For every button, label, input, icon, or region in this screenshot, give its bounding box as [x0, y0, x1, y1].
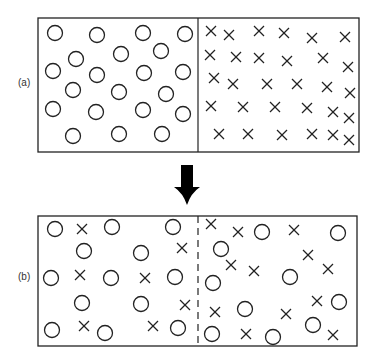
circle-particle-icon — [98, 326, 113, 341]
circle-particle-icon — [137, 66, 152, 81]
circle-particle-icon — [176, 107, 191, 122]
circle-particle-icon — [114, 47, 129, 62]
cross-particle-icon — [328, 107, 338, 117]
circle-particle-icon — [66, 83, 81, 98]
cross-particle-icon — [231, 52, 241, 62]
cross-particle-icon — [328, 130, 338, 140]
cross-particle-icon — [77, 224, 87, 234]
circle-particle-icon — [136, 26, 151, 41]
cross-particle-icon — [254, 26, 264, 36]
circle-particle-icon — [178, 27, 193, 42]
circle-particle-icon — [104, 271, 119, 286]
circle-particle-icon — [283, 270, 298, 285]
cross-particle-icon — [238, 102, 248, 112]
circle-particle-icon — [48, 222, 63, 237]
arrow-down-icon — [174, 165, 200, 205]
cross-particle-icon — [292, 79, 302, 89]
circle-particle-icon — [44, 271, 59, 286]
cross-particle-icon — [140, 273, 150, 283]
cross-particle-icon — [228, 79, 238, 89]
cross-particle-icon — [307, 33, 317, 43]
circle-particle-icon — [90, 68, 105, 83]
circle-particle-icon — [90, 28, 105, 43]
circle-particle-icon — [266, 330, 281, 345]
circle-particle-icon — [46, 64, 61, 79]
cross-particle-icon — [148, 321, 158, 331]
cross-particle-icon — [79, 321, 89, 331]
cross-particle-icon — [241, 329, 251, 339]
cross-particle-icon — [226, 260, 236, 270]
cross-particle-icon — [254, 53, 264, 63]
circle-particle-icon — [66, 129, 81, 144]
cross-particle-icon — [277, 130, 287, 140]
circle-particle-icon — [168, 270, 183, 285]
cross-particle-icon — [209, 73, 219, 83]
circle-particle-icon — [255, 225, 270, 240]
circle-particle-icon — [89, 105, 104, 120]
cross-particle-icon — [177, 243, 187, 253]
cross-particle-icon — [205, 50, 215, 60]
cross-particle-icon — [303, 250, 313, 260]
cross-particle-icon — [345, 88, 355, 98]
circle-particle-icon — [166, 220, 181, 235]
cross-particle-icon — [307, 129, 317, 139]
cross-particle-icon — [344, 135, 354, 145]
circle-particle-icon — [238, 302, 253, 317]
cross-particle-icon — [322, 82, 332, 92]
cross-particle-icon — [343, 62, 353, 72]
circle-particle-icon — [77, 244, 92, 259]
circle-particle-icon — [155, 127, 170, 142]
cross-particle-icon — [206, 219, 216, 229]
circle-particle-icon — [134, 246, 149, 261]
circle-particle-icon — [105, 220, 120, 235]
circle-particle-icon — [176, 65, 191, 80]
circle-particle-icon — [48, 26, 63, 41]
cross-particle-icon — [262, 79, 272, 89]
circle-particle-icon — [134, 297, 149, 312]
cross-particle-icon — [233, 227, 243, 237]
cross-particle-icon — [282, 56, 292, 66]
circle-particle-icon — [171, 321, 186, 336]
circle-particle-icon — [136, 103, 151, 118]
cross-particle-icon — [75, 270, 85, 280]
circle-particle-icon — [45, 323, 60, 338]
cross-particle-icon — [214, 129, 224, 139]
cross-particle-icon — [270, 102, 280, 112]
circle-particle-icon — [75, 296, 90, 311]
circle-particle-icon — [206, 276, 221, 291]
circle-particle-icon — [112, 85, 127, 100]
cross-particle-icon — [210, 307, 220, 317]
cross-particle-icon — [344, 113, 354, 123]
cross-particle-icon — [323, 264, 333, 274]
cross-particle-icon — [279, 28, 289, 38]
cross-particle-icon — [328, 330, 338, 340]
cross-particle-icon — [206, 26, 216, 36]
cross-particle-icon — [180, 300, 190, 310]
cross-particle-icon — [312, 296, 322, 306]
cross-particle-icon — [206, 101, 216, 111]
cross-particle-icon — [243, 129, 253, 139]
cross-particle-icon — [281, 309, 291, 319]
circle-particle-icon — [331, 226, 346, 241]
cross-particle-icon — [224, 30, 234, 40]
circle-particle-icon — [46, 102, 61, 117]
cross-particle-icon — [302, 103, 312, 113]
circle-particle-icon — [214, 242, 229, 257]
mixing-diagram — [0, 0, 375, 357]
circle-particle-icon — [154, 44, 169, 59]
circle-particle-icon — [112, 127, 127, 142]
circle-particle-icon — [69, 52, 84, 67]
cross-particle-icon — [289, 225, 299, 235]
cross-particle-icon — [318, 53, 328, 63]
cross-particle-icon — [249, 266, 259, 276]
circle-particle-icon — [306, 318, 321, 333]
circle-particle-icon — [205, 327, 220, 342]
cross-particle-icon — [340, 32, 350, 42]
circle-particle-icon — [159, 87, 174, 102]
circle-particle-icon — [332, 295, 347, 310]
